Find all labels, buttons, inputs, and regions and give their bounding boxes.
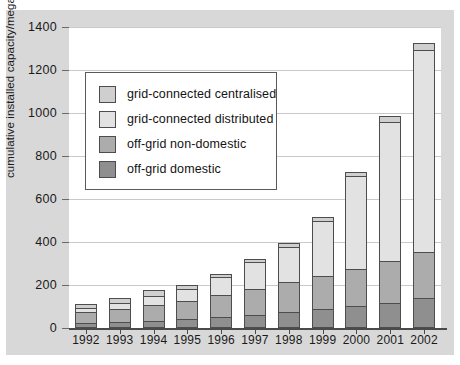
bar-1996: [210, 275, 232, 328]
chart-legend: grid-connected centralisedgrid-connected…: [85, 72, 277, 190]
legend-swatch-icon: [99, 136, 116, 153]
bar-segment: [143, 321, 165, 328]
bar-segment: [413, 252, 435, 299]
legend-swatch-icon: [99, 161, 116, 178]
bar-segment: [413, 50, 435, 253]
bar-1999: [312, 218, 334, 328]
legend-item: grid-connected centralised: [99, 83, 276, 105]
x-tick-1999: [323, 330, 324, 334]
bar-1998: [278, 244, 300, 328]
y-tick-label-200: 200: [6, 278, 57, 292]
y-tick-label-1400: 1400: [6, 20, 57, 34]
x-tick-1997: [255, 330, 256, 334]
bar-segment: [244, 315, 266, 328]
y-tick-1400: [62, 27, 69, 28]
y-tick-400: [62, 242, 69, 243]
bar-segment: [312, 221, 334, 277]
bar-segment: [210, 295, 232, 319]
bar-segment: [176, 301, 198, 320]
bar-segment: [278, 243, 300, 248]
bar-segment: [176, 289, 198, 302]
x-tick-2000: [356, 330, 357, 334]
legend-label: off-grid non-domestic: [127, 137, 246, 151]
bar-segment: [413, 298, 435, 328]
bar-segment: [278, 282, 300, 313]
bar-segment: [143, 290, 165, 297]
gridline-1400: [69, 27, 441, 28]
x-tick-1993: [120, 330, 121, 334]
bar-segment: [345, 306, 367, 328]
y-tick-label-1200: 1200: [6, 63, 57, 77]
bar-segment: [278, 247, 300, 283]
bar-1993: [109, 299, 131, 328]
bar-segment: [75, 304, 97, 308]
legend-swatch-icon: [99, 86, 116, 103]
y-tick-label-800: 800: [6, 149, 57, 163]
bar-segment: [413, 43, 435, 50]
y-tick-600: [62, 199, 69, 200]
bar-segment: [379, 116, 401, 123]
legend-label: off-grid domestic: [127, 162, 221, 176]
bar-segment: [75, 312, 97, 324]
y-tick-label-600: 600: [6, 192, 57, 206]
y-tick-1200: [62, 70, 69, 71]
bar-segment: [244, 262, 266, 290]
y-tick-800: [62, 156, 69, 157]
bar-1995: [176, 286, 198, 328]
y-tick-1000: [62, 113, 69, 114]
y-tick-label-1000: 1000: [6, 106, 57, 120]
x-tick-2002: [424, 330, 425, 334]
bar-segment: [379, 261, 401, 304]
bar-segment: [379, 303, 401, 328]
bar-segment: [143, 305, 165, 321]
x-tick-1996: [221, 330, 222, 334]
bar-segment: [210, 277, 232, 295]
bar-segment: [345, 269, 367, 308]
bar-segment: [109, 309, 131, 323]
chart-figure: cumulative installed capacity/megawatts …: [6, 10, 454, 355]
legend-item: off-grid domestic: [99, 158, 221, 180]
bar-segment: [312, 276, 334, 310]
bar-segment: [379, 122, 401, 262]
bar-segment: [210, 274, 232, 278]
bar-segment: [210, 317, 232, 328]
legend-label: grid-connected centralised: [127, 87, 276, 101]
bar-segment: [244, 289, 266, 316]
legend-item: off-grid non-domestic: [99, 133, 246, 155]
bar-2001: [379, 117, 401, 328]
y-tick-label-0: 0: [6, 321, 57, 335]
legend-item: grid-connected distributed: [99, 108, 273, 130]
bar-segment: [278, 312, 300, 328]
y-tick-0: [62, 328, 69, 329]
legend-label: grid-connected distributed: [127, 112, 273, 126]
x-tick-2001: [390, 330, 391, 334]
bar-segment: [176, 319, 198, 328]
bar-segment: [109, 298, 131, 304]
bar-segment: [143, 296, 165, 306]
legend-swatch-icon: [99, 111, 116, 128]
y-tick-label-400: 400: [6, 235, 57, 249]
gridline-1200: [69, 70, 441, 71]
bar-1994: [143, 291, 165, 328]
y-tick-200: [62, 285, 69, 286]
x-tick-label-2002: 2002: [404, 333, 444, 347]
bar-2002: [413, 44, 435, 328]
bar-segment: [312, 309, 334, 328]
bar-segment: [244, 259, 266, 263]
x-tick-1994: [154, 330, 155, 334]
bar-segment: [109, 303, 131, 310]
bar-2000: [345, 173, 367, 328]
bar-segment: [345, 172, 367, 177]
bar-segment: [176, 285, 198, 290]
bar-1992: [75, 305, 97, 328]
bar-segment: [345, 176, 367, 269]
bar-1997: [244, 260, 266, 328]
x-tick-1992: [86, 330, 87, 334]
bar-segment: [312, 217, 334, 222]
x-tick-1995: [187, 330, 188, 334]
x-tick-1998: [289, 330, 290, 334]
